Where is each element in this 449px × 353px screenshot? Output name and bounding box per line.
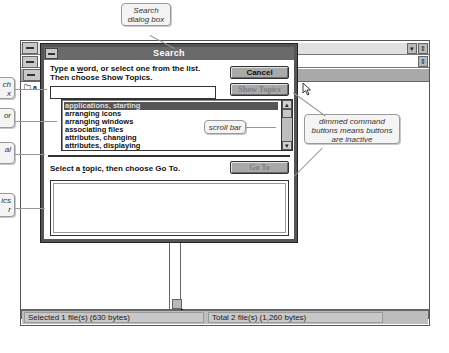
callout-scroll-bar: scroll bar <box>204 120 246 134</box>
list-scrollbar[interactable]: ▴ ▾ <box>281 100 292 150</box>
scroll-down-icon[interactable]: ▾ <box>282 141 292 150</box>
topic-keyword-list[interactable]: applications, starting arranging icons a… <box>61 99 293 151</box>
callout-search-dialog: Search dialog box <box>121 3 171 26</box>
scroll-up-icon[interactable]: ▴ <box>282 100 292 109</box>
search-dialog: Search Type a word, or select one from t… <box>41 44 297 242</box>
callout-leader <box>15 121 57 122</box>
callout-leader <box>15 154 45 155</box>
scroll-updown-icon-2[interactable]: ⇕ <box>418 56 428 67</box>
topics-list[interactable] <box>50 180 289 236</box>
dialog-control-menu-icon[interactable] <box>45 48 58 59</box>
cancel-button[interactable]: Cancel <box>230 66 289 79</box>
callout-dimmed-buttons: dimmed command buttons means buttons are… <box>304 114 400 144</box>
status-total: Total 2 file(s) (1,260 bytes) <box>208 312 383 323</box>
go-to-button[interactable]: Go To <box>230 161 289 174</box>
scroll-updown-icon[interactable]: ⇕ <box>418 43 428 54</box>
scroll-thumb[interactable] <box>282 109 292 118</box>
callout-list: or <box>0 108 15 128</box>
callout-topics-list: ics r <box>0 193 15 217</box>
callout-leader <box>15 89 47 90</box>
callout-separator: al <box>0 142 15 164</box>
split-scroll-icon[interactable] <box>172 299 182 309</box>
list-item[interactable]: attributes, displaying <box>64 142 278 150</box>
instruction-text: Type a word, or select one from the list… <box>50 64 200 82</box>
callout-leader <box>15 208 45 209</box>
control-menu-icon[interactable] <box>22 42 38 54</box>
callout-leader <box>246 127 276 128</box>
callout-search-box: ch x <box>0 77 15 99</box>
status-bar: Selected 1 file(s) (630 bytes) Total 2 f… <box>22 310 428 324</box>
status-selected: Selected 1 file(s) (630 bytes) <box>24 312 204 323</box>
minimize-icon[interactable] <box>23 69 41 81</box>
search-input[interactable] <box>50 86 216 99</box>
dropdown-arrow-icon[interactable]: ▾ <box>407 43 417 54</box>
mouse-pointer-icon <box>302 82 312 100</box>
dialog-separator <box>48 155 290 157</box>
dialog-title: Search <box>153 48 185 58</box>
dialog-title-bar: Search <box>44 47 294 60</box>
show-topics-button[interactable]: Show Topics <box>230 83 289 96</box>
topic-prompt: Select a topic, then choose Go To. <box>50 164 180 173</box>
child-control-menu-icon[interactable] <box>22 56 38 68</box>
